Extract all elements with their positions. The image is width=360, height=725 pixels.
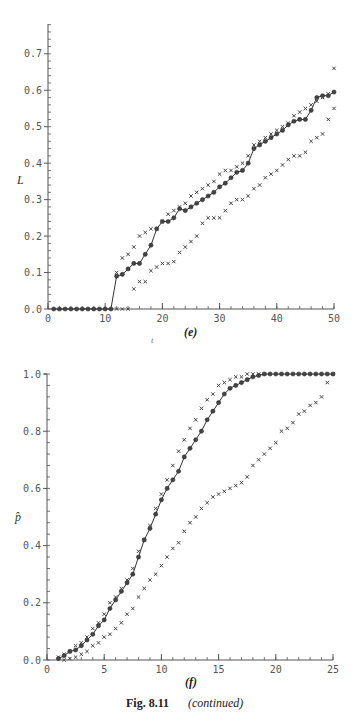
y-tick-label: 0.5 (24, 121, 42, 132)
panel-label-e: (e) (184, 325, 197, 340)
x-tick-label: 20 (270, 664, 282, 675)
x-tick-label: 20 (156, 313, 168, 324)
y-tick-label: 0.2 (23, 597, 41, 608)
y-tick-label: 0.0 (23, 655, 41, 666)
series-upper-bound (57, 372, 266, 659)
x-tick-label: 0 (44, 664, 50, 675)
series-estimate (52, 90, 336, 311)
y-tick-label: 0.4 (24, 158, 42, 169)
y-tick-label: 0.1 (24, 267, 42, 278)
chart-f: 05101520250.00.20.40.60.81.0 (23, 369, 339, 676)
y-tick-label: 1.0 (23, 369, 41, 380)
y-tick-label: 0.0 (24, 304, 42, 315)
y-tick-label: 0.4 (23, 540, 41, 551)
series-estimate (56, 372, 335, 661)
x-tick-label: 30 (214, 313, 226, 324)
x-tick-label: 50 (328, 313, 340, 324)
x-tick-label: 10 (99, 313, 111, 324)
x-tick-label: 15 (213, 664, 225, 675)
figure-continued: (continued) (188, 696, 243, 711)
y-tick-label: 0.2 (24, 231, 42, 242)
x-tick-label: 25 (327, 664, 339, 675)
y-tick-label: 0.8 (23, 426, 41, 437)
x-tick-label: 0 (45, 313, 51, 324)
x-axis-label-e: t (151, 335, 154, 345)
y-axis-label-f: p̂ (15, 510, 21, 525)
figure-canvas: 010203040500.00.10.20.30.40.50.60.7 0510… (0, 0, 360, 725)
x-tick-label: 5 (101, 664, 107, 675)
y-tick-label: 0.6 (24, 85, 42, 96)
y-axis-label-e: L (17, 173, 24, 188)
series-lower-bound (115, 107, 336, 311)
y-tick-label: 0.3 (24, 194, 42, 205)
chart-e: 010203040500.00.10.20.30.40.50.60.7 (24, 24, 340, 324)
y-tick-label: 0.6 (23, 483, 41, 494)
panel-label-f: (f) (185, 675, 197, 690)
x-tick-label: 40 (271, 313, 283, 324)
series-upper-bound (115, 67, 336, 275)
y-tick-label: 0.7 (24, 48, 42, 59)
figure-label: Fig. 8.11 (126, 696, 169, 711)
x-tick-label: 10 (155, 664, 167, 675)
